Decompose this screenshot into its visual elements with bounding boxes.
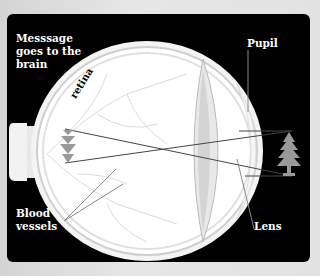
diagram-panel: Messsage goes to the brain retina Pupil …	[7, 14, 310, 262]
message-label: Messsage goes to the brain	[16, 32, 81, 71]
pupil-label: Pupil	[247, 37, 278, 50]
tree-icon	[277, 132, 301, 176]
lens-label: Lens	[254, 220, 282, 233]
blood-vessels-label: Blood vessels	[16, 207, 57, 233]
optic-nerve	[9, 123, 27, 181]
